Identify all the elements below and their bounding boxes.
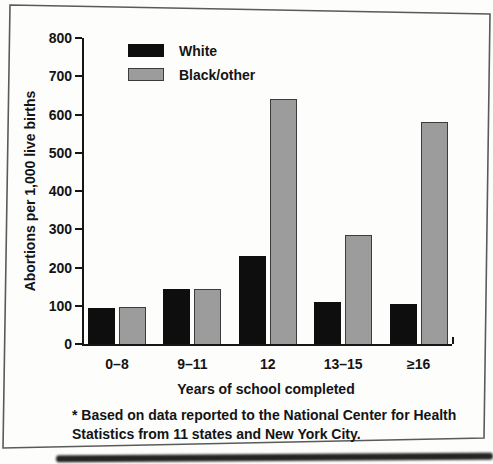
legend-swatch-white	[128, 44, 164, 57]
bar-white-9-11	[163, 289, 190, 344]
y-tick-700	[75, 75, 82, 77]
bar-black-other-13-15	[345, 235, 372, 344]
y-tick-label-600: 600	[30, 107, 72, 123]
y-tick-400	[75, 190, 82, 192]
y-tick-100	[75, 305, 82, 307]
y-tick-200	[75, 267, 82, 269]
y-tick-0	[75, 343, 82, 345]
y-tick-label-0: 0	[30, 336, 72, 352]
y-tick-label-200: 200	[30, 260, 72, 276]
x-tick-label-12: 12	[260, 356, 276, 372]
legend-swatch-black-other	[128, 68, 164, 81]
y-tick-label-300: 300	[30, 221, 72, 237]
x-axis-title: Years of school completed	[82, 381, 450, 397]
x-tick-label-13-15: 13–15	[324, 356, 363, 372]
y-tick-label-500: 500	[30, 145, 72, 161]
x-tick-label-0-8: 0–8	[105, 356, 128, 372]
footnote: * Based on data reported to the National…	[72, 406, 464, 444]
y-tick-label-100: 100	[30, 298, 72, 314]
scan-shadow-band	[56, 453, 493, 463]
x-tick-label-9-11: 9–11	[177, 356, 207, 372]
bar-black-other-9-11	[194, 289, 221, 344]
legend-label-black-other: Black/other	[179, 67, 255, 83]
x-tick-label-16: ≥16	[407, 356, 430, 372]
plot-area: 0100200300400500600700800 0–89–111213–15…	[82, 38, 452, 346]
legend-label-white: White	[179, 43, 217, 59]
y-tick-500	[75, 152, 82, 154]
legend-item-white: White	[128, 44, 255, 57]
y-tick-label-800: 800	[30, 30, 72, 46]
y-tick-300	[75, 228, 82, 230]
bar-black-other-12	[270, 99, 297, 344]
x-tick-labels: 0–89–111213–15≥16	[84, 344, 452, 374]
legend-item-black-other: Black/other	[128, 68, 255, 81]
footnote-line-2: Statistics from 11 states and New York C…	[72, 425, 464, 444]
x-axis-end-tick	[452, 337, 454, 344]
scanned-chart-figure: Abortions per 1,000 live births 01002003…	[0, 0, 493, 464]
y-tick-label-700: 700	[30, 68, 72, 84]
bar-white-13-15	[314, 302, 341, 344]
y-tick-600	[75, 114, 82, 116]
bar-white-16	[390, 304, 417, 344]
footnote-line-1: * Based on data reported to the National…	[72, 406, 464, 425]
y-tick-label-400: 400	[30, 183, 72, 199]
bar-white-0-8	[88, 308, 115, 344]
legend: WhiteBlack/other	[128, 44, 255, 92]
bar-white-12	[239, 256, 266, 344]
bar-black-other-16	[421, 122, 448, 344]
y-tick-800	[75, 37, 82, 39]
bar-black-other-0-8	[119, 307, 146, 344]
